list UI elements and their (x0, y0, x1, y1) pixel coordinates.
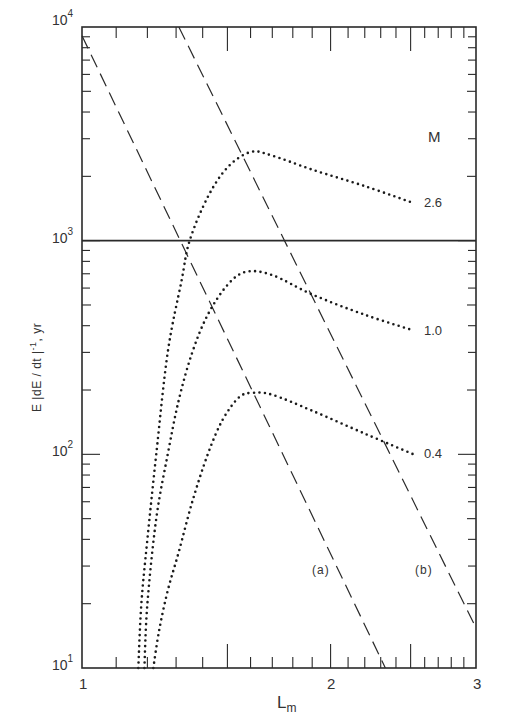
y-tick-base: 10 (52, 657, 68, 673)
series-label-2-6: 2.6 (424, 195, 442, 210)
y-tick-exp: 1 (68, 653, 74, 664)
plot-area (0, 0, 506, 728)
series-label-1-0: 1.0 (424, 323, 442, 338)
line-label-b: (b) (415, 563, 433, 577)
x-tick-3: 3 (473, 675, 481, 692)
y-tick-10e3: 103 (52, 228, 73, 246)
y-axis-label-unit: , yr (30, 323, 44, 342)
dotted-curve-m-0-4 (153, 392, 413, 668)
x-axis-label: Lm (277, 693, 296, 715)
y-tick-10e4: 104 (52, 10, 73, 28)
x-tick-2: 2 (327, 675, 335, 692)
y-tick-base: 10 (52, 443, 68, 459)
y-tick-exp: 2 (68, 439, 74, 450)
y-tick-base: 10 (52, 12, 68, 28)
x-axis-label-sub: m (286, 701, 296, 715)
y-axis-label-exp: -1 (28, 341, 38, 350)
y-tick-exp: 4 (68, 8, 74, 19)
y-tick-exp: 3 (68, 226, 74, 237)
y-tick-10e2: 102 (52, 441, 73, 459)
x-tick-1: 1 (79, 675, 87, 692)
y-axis-label: E |dE / dt |-1, yr (28, 323, 44, 412)
line-label-a: (a) (312, 563, 330, 577)
y-tick-base: 10 (52, 230, 68, 246)
y-tick-10e1: 101 (52, 655, 73, 673)
series-label-0-4: 0.4 (424, 446, 442, 461)
dotted-curve-m-1-0 (144, 271, 413, 668)
legend-title-m: M (428, 128, 441, 145)
dotted-series (138, 151, 413, 668)
y-axis-label-main: E |dE / dt | (30, 350, 44, 412)
dotted-curve-m-2-6 (138, 151, 413, 668)
